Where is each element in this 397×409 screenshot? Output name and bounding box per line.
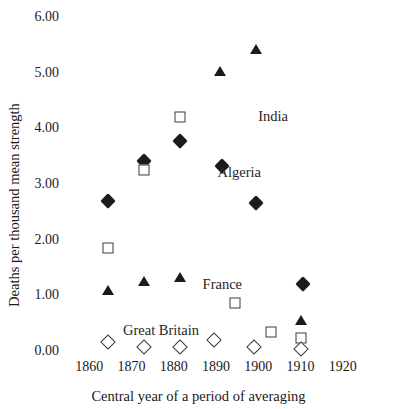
- data-point-filled-triangle: [295, 315, 307, 325]
- series-label-india: India: [258, 107, 288, 124]
- y-tick-label: 5.00: [35, 66, 60, 80]
- y-tick-label: 2.00: [35, 233, 60, 247]
- series-label-great-britain: Great Britain: [123, 321, 199, 338]
- data-point-filled-diamond: [172, 133, 188, 149]
- x-tick-label: 1910: [287, 360, 315, 374]
- plot-area: 0.001.002.003.004.005.006.00 18601870188…: [68, 17, 364, 351]
- data-point-filled-triangle: [174, 272, 186, 282]
- chart-figure: Deaths per thousand mean strength 0.001.…: [0, 0, 397, 409]
- data-point-filled-diamond: [248, 195, 264, 211]
- data-point-open-diamond: [206, 332, 222, 348]
- series-label-algeria: Algeria: [218, 163, 261, 180]
- y-tick-label: 0.00: [35, 344, 60, 358]
- data-point-open-square: [139, 165, 150, 176]
- y-tick-label: 3.00: [35, 177, 60, 191]
- x-tick-label: 1900: [244, 360, 272, 374]
- y-axis-title: Deaths per thousand mean strength: [6, 103, 23, 307]
- y-tick-label: 4.00: [35, 121, 60, 135]
- data-point-open-square: [265, 326, 276, 337]
- data-point-filled-diamond: [295, 276, 311, 292]
- x-axis-title: Central year of a period of averaging: [0, 388, 397, 405]
- y-tick-label: 6.00: [35, 10, 60, 24]
- data-point-open-diamond: [293, 341, 309, 357]
- x-tick-label: 1890: [202, 360, 230, 374]
- data-point-open-diamond: [246, 339, 262, 355]
- data-point-open-diamond: [136, 339, 152, 355]
- data-point-filled-triangle: [250, 44, 262, 54]
- data-point-filled-diamond: [100, 193, 116, 209]
- data-point-filled-triangle: [138, 276, 150, 286]
- x-tick-label: 1880: [160, 360, 188, 374]
- data-point-filled-triangle: [214, 66, 226, 76]
- data-point-open-square: [175, 112, 186, 123]
- y-tick-label: 1.00: [35, 288, 60, 302]
- series-label-france: France: [203, 275, 242, 292]
- data-point-open-diamond: [100, 334, 116, 350]
- x-tick-label: 1860: [75, 360, 103, 374]
- data-point-open-square: [103, 243, 114, 254]
- data-point-filled-triangle: [102, 285, 114, 295]
- data-point-open-diamond: [172, 339, 188, 355]
- data-point-open-square: [230, 298, 241, 309]
- x-tick-label: 1870: [117, 360, 145, 374]
- x-tick-label: 1920: [329, 360, 357, 374]
- cropped-title-remnant: [80, 0, 380, 2]
